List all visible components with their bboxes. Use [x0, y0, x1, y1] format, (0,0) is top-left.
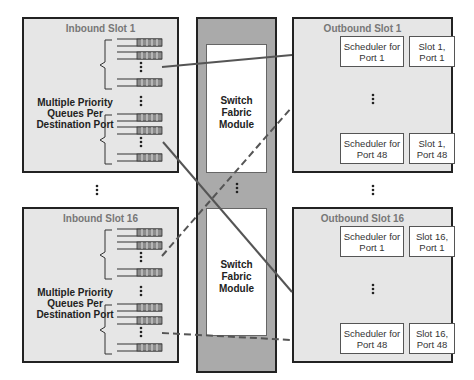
- diagram-overlay: [0, 0, 474, 380]
- connection-solid-1: [162, 55, 292, 67]
- connection-dashed-1: [162, 107, 292, 256]
- queue-group-slot16-port48: [100, 304, 162, 354]
- ellipsis-outbound: [372, 185, 375, 196]
- ellipsis-outbound-16: [372, 284, 375, 295]
- queue-group-slot1-port48: [100, 114, 162, 164]
- queue-group-slot1-port1: [100, 39, 162, 89]
- queue-group-slot16-port1: [100, 229, 162, 279]
- ellipsis-fabric: [236, 183, 239, 194]
- connection-dashed-2: [162, 333, 292, 340]
- ellipsis-outbound-1: [372, 94, 375, 105]
- ellipsis-inbound: [96, 185, 99, 196]
- connection-solid-2: [163, 142, 292, 292]
